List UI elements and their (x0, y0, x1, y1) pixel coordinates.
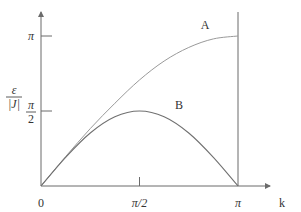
y-axis-label-numerator: ε (12, 83, 17, 97)
curves-group (41, 36, 238, 186)
y-tick-label-pi-half-denominator: 2 (28, 112, 34, 126)
x-tick-label-pi-half: π/2 (132, 196, 147, 210)
series-label-a: A (201, 18, 210, 32)
y-tick-label-pi-half-numerator: π (28, 98, 35, 112)
dispersion-chart: π π 2 ε |J| 0 π/2 π k A B (0, 0, 301, 212)
x-tick-label-pi: π (235, 196, 242, 210)
series-label-b: B (175, 98, 183, 112)
x-axis-label: k (279, 196, 285, 210)
series-line-b (41, 111, 238, 186)
y-tick-label-pi: π (28, 29, 35, 43)
y-axis-label-denominator: |J| (8, 97, 20, 111)
x-tick-label-0: 0 (38, 196, 44, 210)
